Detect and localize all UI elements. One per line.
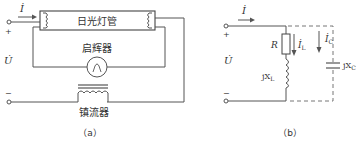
minus-label-a: − <box>5 89 12 98</box>
caption-a: （a） <box>78 128 102 138</box>
current-label-a: İ <box>19 3 25 14</box>
ballast-coil-icon <box>78 91 108 93</box>
filament-left-icon <box>43 13 48 28</box>
capacitor-label: jXC <box>342 61 356 71</box>
current-arrow-icon <box>32 15 37 20</box>
caption-b: （b） <box>278 128 302 138</box>
starter-icon <box>87 57 107 77</box>
terminal-bottom-a <box>7 100 11 104</box>
voltage-label-a: U̇ <box>4 55 13 66</box>
capacitor-current-arrow-icon <box>317 47 322 53</box>
plus-label-b: + <box>223 30 230 39</box>
diagram-b <box>224 18 297 104</box>
terminal-bottom-b <box>224 99 228 103</box>
terminal-top-b <box>224 24 228 28</box>
capacitor-current-label: İC <box>324 33 334 45</box>
inductor-label: jXL <box>261 72 274 82</box>
filament-right-icon <box>148 13 153 28</box>
inductor-current-label: İL <box>297 39 306 51</box>
inductor-current-arrow-icon <box>292 50 297 56</box>
ballast-label: 镇流器 <box>79 106 109 118</box>
minus-label-b: − <box>223 89 230 98</box>
resistor-label: R <box>270 40 278 50</box>
tube-label: 日光灯管 <box>77 15 117 27</box>
resistor-icon <box>282 34 290 54</box>
voltage-label-b: U̇ <box>224 55 233 66</box>
terminal-top-a <box>7 20 11 24</box>
current-label-b: İ <box>241 5 247 16</box>
plus-label-a: + <box>5 27 12 36</box>
circuit-diagrams: İ + U̇ − 日光灯管 启辉器 镇流器 （a） İ <box>0 0 360 144</box>
inductor-icon <box>286 59 289 88</box>
starter-label: 启辉器 <box>82 42 112 54</box>
current-arrow-b-icon <box>250 18 255 23</box>
